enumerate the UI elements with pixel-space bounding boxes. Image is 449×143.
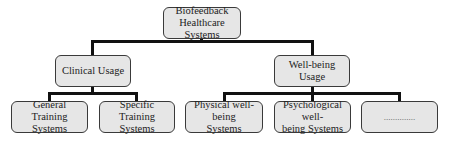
- root-node-line2: Healthcare Systems: [166, 17, 238, 41]
- wellbeing-usage-label: Well-being Usage: [277, 59, 347, 83]
- general-training-node: General Training Systems: [11, 101, 88, 133]
- root-node: Biofeedback Healthcare Systems: [163, 7, 241, 39]
- psychological-wellbeing-line1: Psychological well-: [277, 99, 348, 123]
- psychological-wellbeing-line2: being Systems: [277, 123, 348, 135]
- wellbeing-usage-node: Well-being Usage: [274, 55, 350, 87]
- physical-wellbeing-line1: Physical well-being: [188, 99, 260, 123]
- general-training-line1: General Training: [14, 99, 85, 123]
- specific-training-line1: Specific Training: [102, 99, 172, 123]
- clinical-horizontal-connector: [48, 92, 138, 95]
- more-systems-node: ..............: [361, 101, 438, 133]
- clinical-drop-connector: [91, 40, 94, 55]
- wellbeing-drop-connector: [311, 40, 314, 55]
- specific-training-line2: Systems: [102, 123, 172, 135]
- more-drop-connector: [398, 92, 401, 101]
- specific-training-node: Specific Training Systems: [99, 101, 175, 133]
- psychological-wellbeing-node: Psychological well- being Systems: [274, 101, 351, 133]
- more-systems-placeholder: ..............: [384, 111, 416, 123]
- physical-wellbeing-line2: Systems: [188, 123, 260, 135]
- clinical-usage-label: Clinical Usage: [62, 65, 124, 77]
- root-node-line1: Biofeedback: [166, 5, 238, 17]
- physical-wellbeing-node: Physical well-being Systems: [185, 101, 263, 133]
- general-training-line2: Systems: [14, 123, 85, 135]
- clinical-usage-node: Clinical Usage: [55, 55, 131, 87]
